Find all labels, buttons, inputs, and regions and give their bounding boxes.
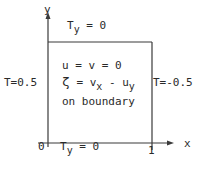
bottom-boundary-condition: Ty = 0 [60, 141, 99, 153]
x-axis-label: x [184, 138, 191, 150]
interior-velocity-condition: u = v = 0 [62, 60, 122, 72]
interior-boundary-note: on boundary [62, 96, 135, 108]
origin-label: 0 [38, 141, 45, 153]
right-boundary-condition: T=-0.5 [153, 77, 193, 89]
left-boundary-condition: T=0.5 [4, 77, 37, 89]
y-axis-label: y [44, 4, 51, 16]
interior-vorticity-condition: ζ = vx - uy [62, 76, 135, 89]
x-tick-label-1: 1 [148, 145, 155, 157]
top-boundary-condition: Ty = 0 [67, 20, 106, 32]
x-axis-arrow-icon [167, 141, 174, 146]
